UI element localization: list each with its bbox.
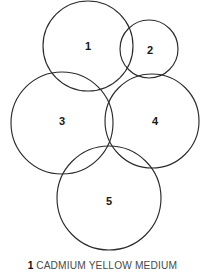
circle-label-2: 2 [147, 44, 153, 56]
circle-label-1: 1 [85, 40, 91, 52]
circle-diagram: 1 2 3 4 5 [0, 0, 205, 258]
circle-label-5: 5 [106, 195, 112, 207]
caption-index: 1 [28, 260, 34, 271]
caption-color-name: CADMIUM YELLOW MEDIUM [36, 260, 177, 271]
circle-label-4: 4 [152, 115, 159, 127]
circle-label-3: 3 [59, 115, 65, 127]
figure-caption: 1CADMIUM YELLOW MEDIUM [0, 260, 205, 271]
figure-root: 1 2 3 4 5 1CADMIUM YELLOW MEDIUM [0, 0, 205, 278]
